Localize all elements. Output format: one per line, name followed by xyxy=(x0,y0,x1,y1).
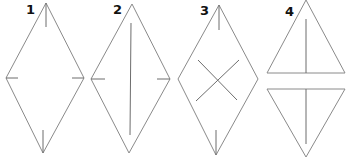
step-3-kite xyxy=(178,5,258,155)
step-1-kite xyxy=(6,3,84,153)
step-2-label: 2 xyxy=(113,3,122,16)
folding-diagram xyxy=(0,0,347,162)
step-2-kite xyxy=(91,4,170,153)
step-4-triangles xyxy=(267,0,345,157)
step-3-label: 3 xyxy=(200,4,209,17)
vertical-fold-line xyxy=(130,23,131,135)
step-1-label: 1 xyxy=(26,3,35,16)
step-4-label: 4 xyxy=(285,5,294,18)
